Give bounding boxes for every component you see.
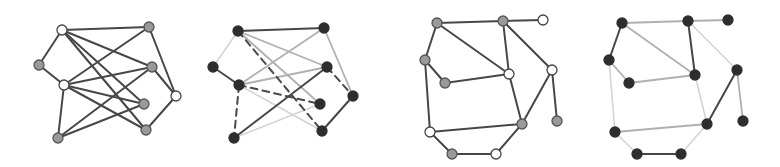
edge-A-G [62,30,144,104]
node-D [147,62,157,72]
edge-P2-P6 [503,21,509,74]
edge-Q6-Q8 [695,75,707,124]
edge-P10-P8 [430,124,522,132]
node-Q3 [723,15,733,25]
edge-Q2-Q7 [688,21,737,70]
edge-P4-P10 [425,60,430,132]
node-D [322,62,332,72]
node-B [144,22,154,32]
node-Q12 [676,149,686,159]
node-E [59,80,69,90]
node-Q11 [632,149,642,159]
node-Q9 [738,116,748,126]
edge-Q2-Q6 [688,21,695,75]
edge-A-D [238,31,327,67]
edge-Q7-Q8 [707,70,737,124]
edge-F-I [322,96,353,131]
edge-P7-P8 [522,70,552,124]
node-P12 [491,149,501,159]
graph-canvas [0,0,780,167]
edge-P1-P4 [425,23,437,60]
edge-Q7-Q9 [737,70,743,121]
graph-2-styled [208,23,358,143]
edge-Q2-Q3 [688,20,728,21]
edge-D-F [327,67,353,96]
node-C [34,60,44,70]
node-Q2 [683,16,693,26]
edge-A-B [62,27,149,30]
node-P2 [498,16,508,26]
edge-Q10-Q8 [615,124,707,132]
edge-Q4-Q10 [609,60,615,132]
node-H [53,133,63,143]
node-Q8 [702,119,712,129]
edge-Q1-Q2 [622,21,688,23]
edge-P12-P8 [496,124,522,154]
nodes [420,15,562,159]
node-Q5 [624,78,634,88]
edge-H-G [234,104,320,138]
nodes [604,15,748,159]
edge-E-H [234,85,239,138]
edge-A-D [62,30,152,67]
graph-4-styled [604,15,748,159]
edge-A-C [213,31,238,67]
graph-3-original [420,15,562,159]
node-P6 [504,69,514,79]
node-G [139,99,149,109]
graph-comparison-figure [0,0,780,167]
node-Q6 [690,70,700,80]
node-F [348,91,358,101]
edge-P6-P8 [509,74,522,124]
node-P3 [538,15,548,25]
node-I [317,126,327,136]
node-Q7 [732,65,742,75]
node-A [233,26,243,36]
node-B [319,23,329,33]
node-P5 [440,78,450,88]
edge-A-C [39,30,62,65]
edge-E-G [239,85,320,104]
edge-P7-P9 [552,70,557,121]
edge-Q5-Q6 [629,75,695,83]
node-P8 [517,119,527,129]
node-Q10 [610,127,620,137]
edge-Q1-Q4 [609,23,622,60]
edge-Q12-Q8 [681,124,707,154]
edge-Q1-Q6 [622,23,695,75]
node-H [229,133,239,143]
edge-E-H [58,85,64,138]
node-E [234,80,244,90]
node-P10 [425,127,435,137]
node-P1 [432,18,442,28]
node-Q1 [617,18,627,28]
node-P7 [547,65,557,75]
edge-P2-P7 [503,21,552,70]
node-C [208,62,218,72]
edge-A-B [238,28,324,31]
edge-A-G [238,31,320,104]
node-I [141,125,151,135]
node-P9 [552,116,562,126]
edge-P2-P3 [503,20,543,21]
node-G [315,99,325,109]
edge-F-I [146,96,176,130]
node-A [57,25,67,35]
edge-P1-P6 [437,23,509,74]
node-P11 [447,149,457,159]
node-F [171,91,181,101]
node-Q4 [604,55,614,65]
edge-P5-P6 [445,74,509,83]
graph-1-original [34,22,181,143]
edge-P1-P2 [437,21,503,23]
node-P4 [420,55,430,65]
